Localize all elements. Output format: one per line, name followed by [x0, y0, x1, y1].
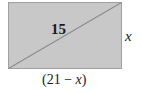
width-label: (21 − x) — [42, 73, 86, 87]
width-label-close: ) — [82, 72, 87, 87]
width-label-open: (21 — [42, 72, 64, 87]
diagonal-length-label: 15 — [51, 22, 66, 37]
height-label: x — [125, 29, 132, 44]
width-label-variable: x — [72, 72, 82, 87]
rectangle-diagram: 15 x (21 − x) — [0, 0, 142, 93]
width-label-minus: − — [64, 72, 72, 87]
